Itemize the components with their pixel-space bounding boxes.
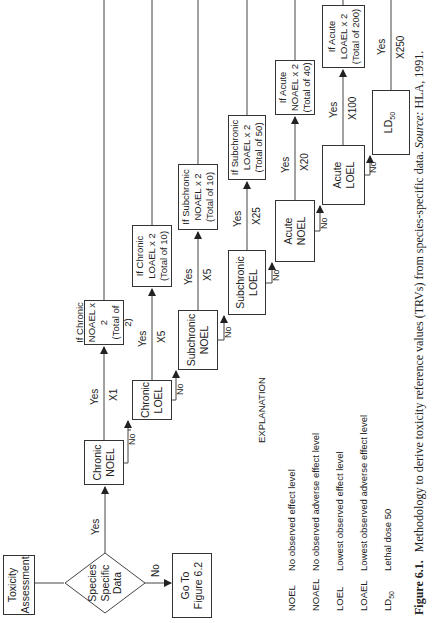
legend-abbr: NOAEL — [310, 571, 321, 611]
result-line1: If Subchronic — [229, 120, 241, 175]
factor-label: X1 — [108, 389, 119, 401]
chronic-loel-box: Chronic LOEL — [132, 380, 172, 420]
legend-abbr: LOEL — [334, 571, 345, 611]
subchronic-loel-box: Subchronic LOEL — [228, 250, 266, 315]
no-label: No — [127, 433, 138, 445]
legend-abbr: LD50 — [382, 571, 395, 611]
yes-label: Yes — [376, 39, 387, 55]
caption-text: Methodology to derive toxicity reference… — [412, 151, 426, 552]
factor-label: X5 — [156, 331, 167, 343]
yes-label: Yes — [328, 102, 339, 118]
chronic-noael-result-box: If Chronic NOAEL x 2 (Total of 2) — [84, 300, 124, 345]
start-line2: Assessment — [19, 556, 32, 613]
yes-label: Yes — [137, 331, 148, 347]
ld-subscript: 50 — [390, 112, 397, 120]
goto-figure-box: Go To Figure 6.2 — [172, 553, 212, 618]
legend-item: NOAELNo observed adverse effect level — [310, 433, 321, 611]
node-line1: Acute — [331, 162, 344, 189]
result-line1: If Chronic — [74, 302, 86, 343]
subchronic-loael-result-box: If Subchronic LOAEL x 2 (Total of 50) — [228, 115, 266, 180]
legend-title: EXPLANATION — [256, 377, 267, 443]
node-line2: LOEL — [344, 162, 357, 189]
no-label: No — [223, 326, 234, 338]
factor-label: X25 — [251, 207, 262, 225]
decision-yes-label: Yes — [90, 519, 101, 535]
species-specific-data-label: Species Specific Data — [82, 553, 128, 613]
no-label: No — [175, 383, 186, 395]
acute-loel-box: Acute LOEL — [322, 145, 365, 205]
legend-item: LOAELLowest observed adverse effect leve… — [358, 415, 369, 611]
result-line2: LOAEL x 2 — [146, 233, 158, 279]
legend-item: NOELNo observed effect level — [286, 469, 297, 611]
node-line2: LOEL — [152, 387, 165, 414]
node-line2: NOEL — [104, 448, 117, 477]
chronic-loael-result-box: If Chronic LOAEL x 2 (Total of 10) — [132, 225, 172, 287]
legend-item: LD50Lethal dose 50 — [382, 509, 395, 611]
decision-line1: Species — [86, 564, 99, 601]
legend-text: Lowest observed adverse effect level — [358, 415, 369, 571]
goto-line1: Go To — [179, 572, 192, 600]
subchronic-noel-box: Subchronic NOEL — [178, 310, 218, 370]
decision-line3: Data — [111, 572, 124, 594]
yes-label: Yes — [232, 211, 243, 227]
legend-text: Lethal dose 50 — [382, 509, 393, 571]
yes-label: Yes — [280, 157, 291, 173]
result-line3: (Total of 2) — [110, 301, 134, 344]
result-line1: If Subchronic — [180, 169, 192, 224]
legend-abbr: LOAEL — [358, 571, 369, 611]
legend-text: Lowest observed effect level — [334, 451, 345, 571]
node-line1: Acute — [282, 218, 295, 245]
factor-label: X250 — [395, 36, 406, 59]
result-line2: NOAEL x 2 — [86, 301, 110, 344]
legend-text: No observed adverse effect level — [310, 433, 321, 571]
figure-canvas: Toxicity Assessment Species Specific Dat… — [0, 0, 433, 623]
chronic-noel-box: Chronic NOEL — [84, 440, 124, 485]
goto-line2: Figure 6.2 — [192, 562, 205, 609]
acute-loael-result-box: If Acute LOAEL x 2 (Total of 200) — [322, 5, 365, 68]
factor-label: X20 — [299, 153, 310, 171]
decision-no-label: No — [150, 564, 161, 577]
legend-ld-text: LD — [382, 599, 393, 611]
result-line3: (Total of 10) — [204, 172, 216, 222]
result-line1: If Acute — [277, 72, 289, 104]
figure-caption: Figure 6.1.Methodology to derive toxicit… — [412, 51, 427, 615]
no-label: No — [319, 217, 330, 229]
result-line2: LOAEL x 2 — [241, 125, 253, 171]
ld-text: LD — [382, 120, 394, 133]
node-line1: Chronic — [139, 382, 152, 418]
node-line2: NOEL — [295, 217, 308, 246]
acute-noael-result-box: If Acute NOAEL x 2 (Total of 40) — [275, 60, 315, 115]
result-line3: (Total of 10) — [158, 231, 170, 281]
subchronic-noael-result-box: If Subchronic NOAEL x 2 (Total of 10) — [178, 164, 218, 230]
legend-ld-subscript: 50 — [388, 591, 395, 599]
decision-line2: Specific — [99, 565, 112, 602]
caption-number: Figure 6.1. — [412, 560, 426, 615]
node-line2: NOEL — [198, 326, 211, 355]
yes-label: Yes — [89, 389, 100, 405]
result-line2: LOAEL x 2 — [338, 14, 350, 60]
node-line1: Chronic — [91, 444, 104, 480]
caption-source: HLA, 1991. — [412, 51, 426, 109]
ld50-box: LD50 — [372, 90, 410, 155]
acute-noel-box: Acute NOEL — [275, 200, 315, 262]
toxicity-assessment-box: Toxicity Assessment — [3, 555, 35, 615]
factor-label: X5 — [202, 269, 213, 281]
result-line3: (Total of 50) — [253, 122, 265, 172]
legend-text: No observed effect level — [286, 469, 297, 571]
legend-item: LOELLowest observed effect level — [334, 451, 345, 611]
result-line1: If Acute — [326, 21, 338, 53]
result-line2: NOAEL x 2 — [192, 173, 204, 220]
ld50-label: LD50 — [382, 112, 399, 133]
node-line2: LOEL — [247, 269, 260, 296]
node-line1: Subchronic — [234, 256, 247, 309]
result-line2: NOAEL x 2 — [289, 64, 301, 111]
node-line1: Subchronic — [185, 314, 198, 367]
result-line3: (Total of 200) — [350, 9, 362, 64]
no-label: No — [271, 269, 282, 281]
start-line1: Toxicity — [6, 568, 19, 602]
caption-source-label: Source: — [412, 111, 426, 148]
result-line1: If Chronic — [134, 236, 146, 277]
factor-label: X100 — [347, 97, 358, 120]
legend-abbr: NOEL — [286, 571, 297, 611]
result-line3: (Total of 40) — [301, 62, 313, 112]
